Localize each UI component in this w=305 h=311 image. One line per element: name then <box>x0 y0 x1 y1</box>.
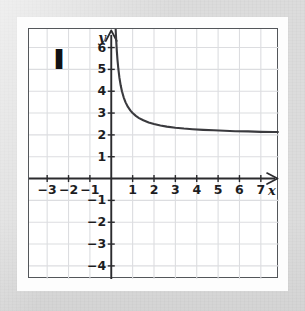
x-axis-tick-label: 7 <box>256 184 265 197</box>
y-axis-tick-label: −3 <box>87 238 106 251</box>
coordinate-plane-svg <box>29 29 279 279</box>
y-axis-tick-label: 2 <box>98 129 107 142</box>
x-axis-tick-label: −3 <box>38 184 57 197</box>
x-axis-tick-label: 6 <box>235 184 244 197</box>
x-axis-tick-label: 3 <box>171 184 180 197</box>
figure-roman-numeral-label: I <box>52 47 65 73</box>
x-axis-tick-label: 4 <box>192 184 201 197</box>
grid-lines <box>29 29 279 279</box>
axis-lines <box>29 31 278 280</box>
y-axis-tick-label: −4 <box>87 260 106 273</box>
x-axis-tick-label: 1 <box>128 184 137 197</box>
y-axis-tick-label: −1 <box>87 194 106 207</box>
x-axis-tick-label: 2 <box>150 184 159 197</box>
y-axis-tick-label: 5 <box>98 63 107 76</box>
scanned-page: −3−2−11234567−4−3−2−1123456xy I <box>0 0 305 311</box>
y-axis-tick-label: 3 <box>98 107 107 120</box>
x-axis-label: x <box>268 184 276 197</box>
x-axis-tick-label: −2 <box>59 184 78 197</box>
x-axis-tick-label: 5 <box>214 184 223 197</box>
y-axis-tick-label: 4 <box>98 85 107 98</box>
y-axis-tick-label: −2 <box>87 216 106 229</box>
y-axis-tick-label: 1 <box>98 150 107 163</box>
coordinate-plane-figure: −3−2−11234567−4−3−2−1123456xy I <box>28 28 278 278</box>
y-axis-label: y <box>98 31 106 44</box>
